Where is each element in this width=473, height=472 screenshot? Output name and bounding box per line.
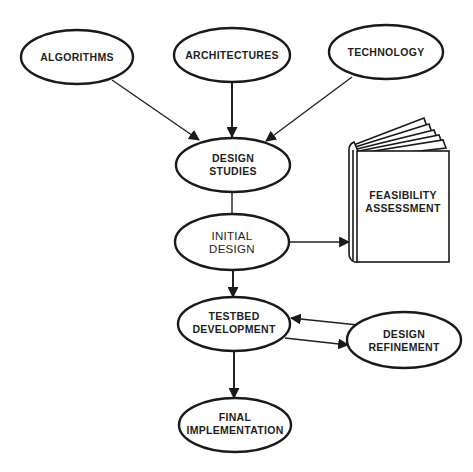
node-algorithms-label: ALGORITHMS (40, 51, 114, 63)
node-final-line2: IMPLEMENTATION (186, 424, 283, 436)
edge-technology-to-design-studies (266, 77, 352, 141)
node-testbed-line2: DEVELOPMENT (192, 323, 276, 335)
node-refinement-line2: REFINEMENT (368, 341, 440, 353)
node-initial-design: INITIAL DESIGN (175, 214, 289, 270)
node-architectures-label: ARCHITECTURES (185, 49, 279, 61)
node-design-studies: DESIGN STUDIES (176, 138, 290, 192)
node-design-studies-line2: STUDIES (209, 165, 257, 177)
edge-testbed-to-refinement (285, 338, 348, 345)
node-architectures: ARCHITECTURES (174, 28, 290, 82)
node-algorithms: ALGORITHMS (21, 30, 133, 84)
edge-refinement-to-testbed (291, 318, 358, 325)
node-technology: TECHNOLOGY (329, 25, 443, 79)
node-feasibility-line1: FEASIBILITY (369, 189, 436, 201)
node-testbed-development: TESTBED DEVELOPMENT (178, 297, 290, 351)
node-final-implementation: FINAL IMPLEMENTATION (179, 398, 291, 452)
node-testbed-line1: TESTBED (208, 310, 259, 322)
node-refinement-line1: DESIGN (383, 328, 425, 340)
node-technology-label: TECHNOLOGY (347, 46, 424, 58)
edge-algorithms-to-design-studies (112, 80, 199, 140)
node-design-refinement: DESIGN REFINEMENT (347, 312, 461, 368)
node-initial-design-line1: INITIAL (211, 230, 252, 242)
node-feasibility-assessment: FEASIBILITY ASSESSMENT (349, 118, 449, 262)
node-initial-design-line2: DESIGN (209, 243, 255, 255)
node-design-studies-line1: DESIGN (212, 152, 254, 164)
node-feasibility-line2: ASSESSMENT (365, 202, 441, 214)
node-final-line1: FINAL (219, 411, 252, 423)
design-flow-diagram: ALGORITHMS ARCHITECTURES TECHNOLOGY DESI… (0, 0, 473, 472)
